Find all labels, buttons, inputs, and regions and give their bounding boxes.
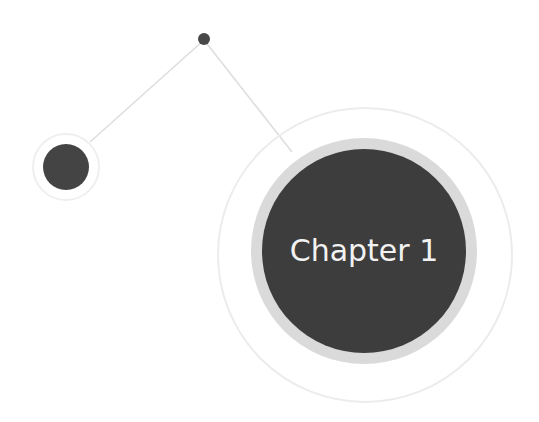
left-node	[43, 144, 89, 190]
connector-line-left	[90, 40, 204, 142]
top-node	[198, 33, 210, 45]
chapter-diagram	[0, 0, 539, 422]
main-node-label: Chapter 1	[263, 226, 465, 274]
